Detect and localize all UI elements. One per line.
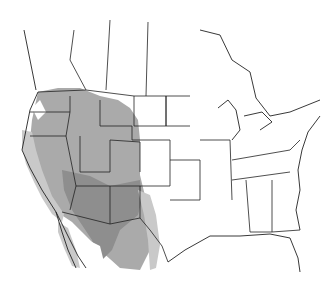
- range-map: [0, 0, 335, 290]
